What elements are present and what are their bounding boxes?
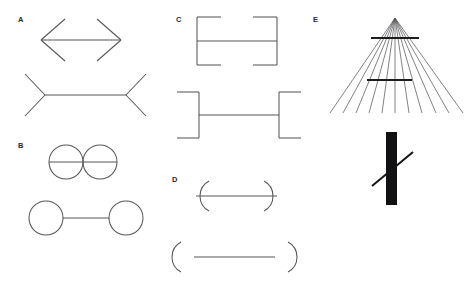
figure-plate: A B — [0, 0, 473, 285]
panel-label-a: A — [18, 15, 24, 24]
panel-label-e: E — [313, 15, 318, 24]
panel-label-b: B — [18, 141, 24, 150]
poggendorff-vertical-bar — [386, 132, 397, 205]
panel-label-d: D — [172, 175, 178, 184]
illusion-figure-svg: A B — [0, 0, 473, 285]
panel-label-c: C — [176, 15, 182, 24]
